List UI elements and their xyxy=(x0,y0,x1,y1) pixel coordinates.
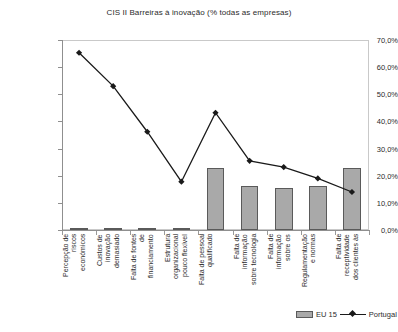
line-series-portugal xyxy=(62,40,369,231)
x-axis-category-label: Falta de fontes de financiamento xyxy=(130,234,164,326)
chart-legend: EU 15 Portugal xyxy=(296,307,397,321)
x-axis-category-label: Estrutura organizacional pouco flexível xyxy=(164,234,198,326)
data-point-marker xyxy=(281,164,287,170)
x-axis-category-label: Custos de inovação demasiado xyxy=(96,234,130,326)
data-point-marker xyxy=(315,175,321,181)
legend-diamond-marker xyxy=(349,309,356,316)
legend-label-eu15: EU 15 xyxy=(316,310,337,319)
x-axis-tick-mark xyxy=(369,231,370,235)
x-axis-category-label: Percepção de riscos económicos xyxy=(62,234,96,326)
x-axis-category-label: Falta de pessoal qualificado xyxy=(198,234,232,326)
legend-line-portugal xyxy=(340,310,366,319)
legend-swatch-eu15 xyxy=(296,311,313,318)
data-point-marker xyxy=(349,189,355,195)
x-axis-category-label: Falta de informação sobre tecnologia xyxy=(233,234,267,326)
chart-container: CIS II Barreiras à inovação (% todas as … xyxy=(0,0,398,332)
line-path xyxy=(79,53,352,192)
chart-title: CIS II Barreiras à inovação (% todas as … xyxy=(0,8,398,17)
legend-label-portugal: Portugal xyxy=(369,310,397,319)
